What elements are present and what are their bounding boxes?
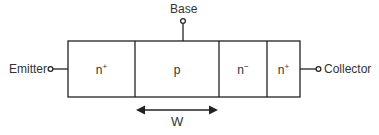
region-emitter-n-plus: n+	[68, 62, 135, 77]
width-arrow-right-head-icon	[209, 106, 218, 115]
width-dimension-label: W	[171, 114, 183, 129]
region-doping-sup: −	[244, 62, 249, 71]
width-arrow-left-head-icon	[136, 106, 145, 115]
region-label: p	[174, 63, 181, 77]
collector-label: Collector	[324, 62, 371, 76]
collector-terminal-icon	[316, 67, 321, 72]
emitter-label: Emitter	[9, 62, 47, 76]
region-collector-n-plus: n+	[267, 62, 300, 77]
region-base-p: p	[135, 62, 219, 77]
region-label: n	[237, 63, 244, 77]
region-doping-sup: +	[103, 62, 108, 71]
base-terminal-icon	[181, 19, 186, 24]
base-label: Base	[170, 2, 197, 16]
region-doping-sup: +	[285, 62, 290, 71]
region-label: n	[278, 63, 285, 77]
region-collector-n-minus: n−	[219, 62, 267, 77]
emitter-terminal-icon	[48, 67, 53, 72]
region-label: n	[96, 63, 103, 77]
